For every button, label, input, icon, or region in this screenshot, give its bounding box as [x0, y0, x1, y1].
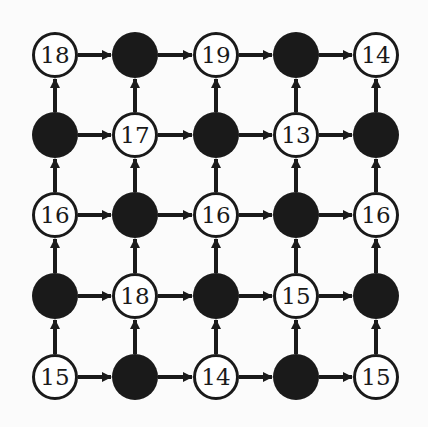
labeled-node: 14 [355, 34, 398, 77]
node-label: 15 [361, 364, 390, 390]
node-label: 15 [281, 283, 310, 309]
filled-node [193, 112, 239, 158]
filled-node [112, 32, 158, 78]
labeled-node: 17 [114, 114, 157, 157]
labeled-node: 13 [275, 114, 318, 157]
labeled-node: 15 [275, 275, 318, 318]
filled-node [353, 112, 399, 158]
filled-node [112, 354, 158, 400]
labeled-node: 15 [355, 356, 398, 399]
labeled-node: 15 [34, 356, 77, 399]
filled-node [193, 273, 239, 319]
filled-node [32, 273, 78, 319]
labeled-node: 18 [114, 275, 157, 318]
node-label: 14 [201, 364, 230, 390]
labeled-node: 16 [34, 194, 77, 237]
filled-node [273, 354, 319, 400]
grid-diagram: 18191417131616161815151415 [0, 0, 428, 427]
node-label: 19 [201, 42, 230, 68]
node-label: 15 [40, 364, 69, 390]
node-label: 17 [120, 122, 149, 148]
node-label: 18 [120, 283, 149, 309]
filled-node [273, 32, 319, 78]
labeled-node: 16 [195, 194, 238, 237]
node-label: 16 [361, 202, 390, 228]
node-label: 14 [361, 42, 390, 68]
node-label: 16 [40, 202, 69, 228]
filled-node [112, 192, 158, 238]
node-label: 16 [201, 202, 230, 228]
filled-node [32, 112, 78, 158]
labeled-node: 19 [195, 34, 238, 77]
filled-node [273, 192, 319, 238]
node-label: 13 [281, 122, 310, 148]
labeled-node: 16 [355, 194, 398, 237]
labeled-node: 14 [195, 356, 238, 399]
labeled-node: 18 [34, 34, 77, 77]
filled-node [353, 273, 399, 319]
node-label: 18 [40, 42, 69, 68]
